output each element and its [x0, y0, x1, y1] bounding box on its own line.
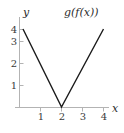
x-axis-label: x	[112, 103, 118, 114]
y-tick-label-4: 4	[5, 25, 17, 35]
y-axis-label: y	[23, 7, 29, 18]
y-axis-ticks	[20, 30, 24, 86]
x-axis-ticks	[41, 108, 104, 112]
y-tick-label-3: 3	[5, 37, 17, 47]
x-tick-label-1: 1	[34, 112, 48, 122]
x-tick-label-3: 3	[76, 112, 90, 122]
x-tick-label-2: 2	[55, 112, 69, 122]
curve-label: g(f(x))	[64, 7, 98, 18]
graph-figure: g(f(x)) y x 1 2 3 4 1 2 3 4	[0, 0, 124, 133]
curve-g-of-f-of-x	[23, 29, 104, 107]
y-tick-label-2: 2	[5, 59, 17, 69]
y-tick-label-1: 1	[5, 81, 17, 91]
x-tick-label-4: 4	[97, 112, 111, 122]
